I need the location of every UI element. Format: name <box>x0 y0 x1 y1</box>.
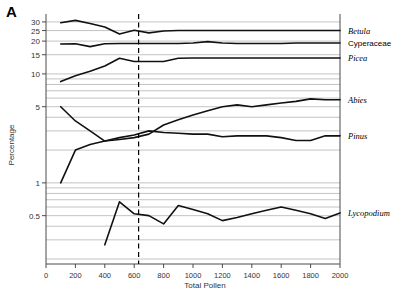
y-tick-label: 25 <box>31 27 40 36</box>
x-axis-title: Total Pollen <box>184 281 225 290</box>
series-label-picea: Picea <box>347 53 367 63</box>
x-tick-label: 400 <box>99 271 112 280</box>
y-tick-label: 1 <box>36 179 41 188</box>
series-label-abies: Abies <box>347 95 368 105</box>
series-line-picea <box>61 58 340 82</box>
x-tick-label: 1200 <box>214 271 231 280</box>
y-tick-label: 20 <box>31 37 40 46</box>
chart-figure: A 3025201510510.5 0200400600800100012001… <box>0 0 398 297</box>
series-line-cyperaceae <box>61 42 340 47</box>
x-tick-label: 1600 <box>273 271 290 280</box>
y-tick-labels-group: 3025201510510.5 <box>29 18 41 221</box>
series-label-betula: Betula <box>348 26 370 36</box>
series-label-lycopodium: Lycopodium <box>347 208 390 218</box>
x-tick-labels-group: 0200400600800100012001400160018002000 <box>44 271 348 280</box>
x-tick-label: 200 <box>69 271 82 280</box>
x-tick-label: 1800 <box>302 271 319 280</box>
y-tick-label: 10 <box>31 70 40 79</box>
series-line-lycopodium <box>105 202 340 245</box>
pollen-percentage-chart: 3025201510510.5 020040060080010001200140… <box>0 0 398 297</box>
y-tick-label: 0.5 <box>29 212 41 221</box>
y-tick-label: 5 <box>36 103 41 112</box>
series-line-betula <box>61 20 340 34</box>
series-label-cyperaceae: Cyperaceae <box>348 39 392 48</box>
y-axis-title: Percentage <box>7 124 16 165</box>
x-tick-label: 600 <box>128 271 141 280</box>
x-tick-label: 2000 <box>332 271 349 280</box>
x-tick-label: 1000 <box>185 271 202 280</box>
series-label-pinus: Pinus <box>347 131 368 141</box>
series-line-pinus <box>61 107 340 141</box>
series-labels-group: BetulaCyperaceaePiceaAbiesPinusLycopodiu… <box>347 26 392 218</box>
y-tick-label: 15 <box>31 51 40 60</box>
x-tick-label: 0 <box>44 271 48 280</box>
data-series-group <box>61 20 340 244</box>
x-tick-label: 800 <box>157 271 170 280</box>
x-tick-label: 1400 <box>243 271 260 280</box>
